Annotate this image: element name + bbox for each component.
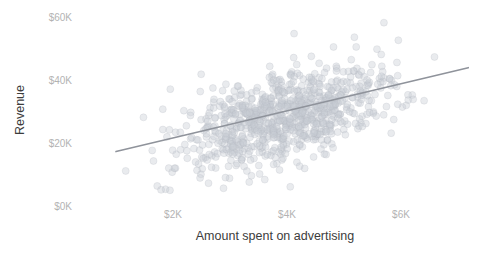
scatter-point	[180, 107, 187, 114]
scatter-point	[246, 179, 253, 186]
scatter-point	[299, 109, 306, 116]
scatter-point	[394, 72, 401, 79]
scatter-point	[159, 106, 166, 113]
scatter-point	[208, 164, 215, 171]
scatter-point	[368, 61, 375, 68]
scatter-point	[349, 84, 356, 91]
scatter-point	[210, 104, 217, 111]
scatter-point	[158, 186, 165, 193]
scatter-point	[288, 80, 295, 87]
scatter-point	[359, 123, 366, 130]
scatter-point	[150, 157, 157, 164]
scatter-point	[222, 81, 229, 88]
scatter-point	[293, 61, 300, 68]
scatter-point	[270, 131, 277, 138]
scatter-point	[229, 98, 236, 105]
scatter-point	[383, 103, 390, 110]
scatter-point	[323, 128, 330, 135]
scatter-point	[296, 92, 303, 99]
scatter-point	[272, 154, 279, 161]
scatter-point	[337, 118, 344, 125]
scatter-point	[225, 163, 232, 170]
scatter-point	[209, 84, 216, 91]
scatter-point	[366, 109, 373, 116]
x-axis-title: Amount spent on advertising	[196, 229, 354, 243]
scatter-chart: $60K $40K $20K $0K Revenue $2K $4K $6K A…	[0, 0, 483, 256]
scatter-point	[308, 95, 315, 102]
scatter-point	[194, 136, 201, 143]
scatter-point	[333, 84, 340, 91]
scatter-point	[310, 153, 317, 160]
scatter-point	[321, 69, 328, 76]
scatter-point	[167, 86, 174, 93]
scatter-point	[259, 136, 266, 143]
scatter-point	[171, 165, 178, 172]
scatter-point	[236, 150, 243, 157]
scatter-point	[304, 117, 311, 124]
scatter-point	[310, 130, 317, 137]
scatter-point	[364, 76, 371, 83]
scatter-point	[122, 167, 129, 174]
scatter-point	[219, 87, 226, 94]
scatter-point	[421, 97, 428, 104]
scatter-point	[280, 133, 287, 140]
scatter-point	[255, 122, 262, 129]
scatter-point	[308, 53, 315, 60]
scatter-point	[351, 110, 358, 117]
scatter-point	[290, 54, 297, 61]
scatter-point	[394, 101, 401, 108]
y-axis-title: Revenue	[13, 85, 27, 135]
scatter-point	[183, 122, 190, 129]
scatter-point	[262, 98, 269, 105]
scatter-point	[395, 37, 402, 44]
scatter-point	[215, 140, 222, 147]
scatter-point	[149, 147, 156, 154]
scatter-point	[222, 130, 229, 137]
scatter-point	[367, 69, 374, 76]
scatter-point	[380, 111, 387, 118]
scatter-point	[221, 110, 228, 117]
scatter-point	[386, 75, 393, 82]
scatter-point	[431, 53, 438, 60]
scatter-point	[301, 165, 308, 172]
y-tick-label-40k: $40K	[49, 75, 73, 86]
scatter-point	[204, 118, 211, 125]
scatter-point	[214, 150, 221, 157]
scatter-point	[246, 134, 253, 141]
scatter-point	[187, 112, 194, 119]
scatter-point	[198, 71, 205, 78]
scatter-point	[270, 77, 277, 84]
scatter-point	[348, 56, 355, 63]
scatter-point	[410, 96, 417, 103]
scatter-point	[287, 115, 294, 122]
scatter-point	[240, 140, 247, 147]
scatter-point	[215, 130, 222, 137]
scatter-point	[323, 151, 330, 158]
scatter-point	[266, 63, 273, 70]
scatter-point	[245, 151, 252, 158]
scatter-point	[173, 151, 180, 158]
scatter-point	[358, 68, 365, 75]
scatter-point	[198, 116, 205, 123]
scatter-point	[232, 110, 239, 117]
scatter-point	[211, 115, 218, 122]
scatter-point	[255, 162, 262, 169]
scatter-point	[197, 88, 204, 95]
scatter-point	[166, 126, 173, 133]
scatter-point	[264, 151, 271, 158]
scatter-point	[352, 120, 359, 127]
scatter-point	[270, 147, 277, 154]
scatter-point	[221, 103, 228, 110]
scatter-point	[220, 185, 227, 192]
y-tick-label-0k: $0K	[54, 201, 72, 212]
scatter-point	[291, 30, 298, 37]
x-tick-label-2k: $2K	[164, 209, 182, 220]
scatter-point	[222, 174, 229, 181]
scatter-point	[328, 79, 335, 86]
scatter-point	[181, 141, 188, 148]
scatter-point	[229, 151, 236, 158]
scatter-point	[166, 187, 173, 194]
scatter-point	[279, 88, 286, 95]
scatter-point	[140, 114, 147, 121]
scatter-point	[309, 77, 316, 84]
